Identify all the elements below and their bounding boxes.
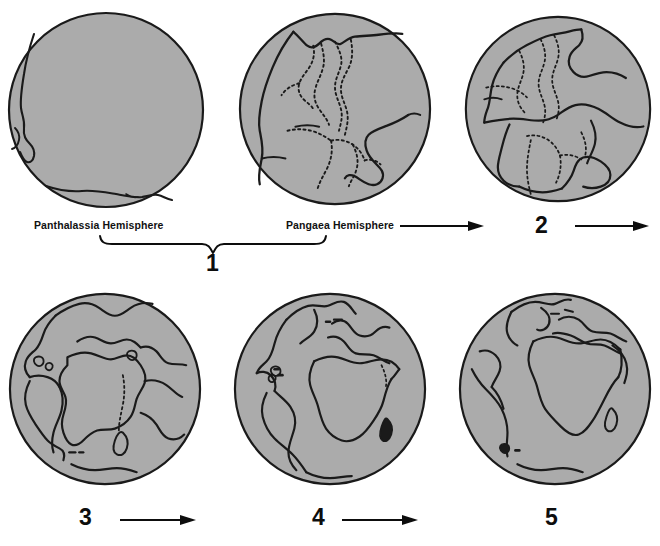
stage-number-2: 2: [535, 214, 548, 237]
stage-number-3: 3: [79, 506, 92, 529]
label-pangaea-hemisphere: Pangaea Hemisphere: [286, 219, 394, 231]
arrow-stage-3-to-stage-4: [118, 512, 198, 528]
stage-number-1: 1: [206, 252, 219, 275]
globe-stage-4: [231, 290, 429, 488]
globe-pangaea: [236, 10, 434, 208]
stage-number-5: 5: [545, 506, 558, 529]
arrow-pangaea-to-stage-2: [398, 218, 486, 234]
globe-stage-5: [456, 290, 654, 488]
arrow-stage-2-to-stage-3: [573, 218, 651, 234]
label-panthalassia-hemisphere: Panthalassia Hemisphere: [34, 219, 164, 231]
pangaea-breakup-figure: Panthalassia Hemisphere Pangaea Hemisphe…: [0, 0, 660, 546]
stage-number-4: 4: [312, 506, 325, 529]
globe-stage-2: [461, 12, 655, 206]
arrow-stage-4-to-stage-5: [340, 512, 420, 528]
globe-panthalassia: [6, 10, 206, 210]
globe-stage-3: [6, 290, 204, 488]
